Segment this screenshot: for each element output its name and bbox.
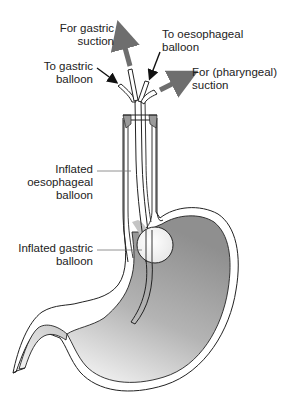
arrow-oesophageal-balloon [150, 52, 160, 78]
label-oesophageal-balloon-port: To oesophageal balloon [162, 28, 243, 54]
oesophagus-outer-right [157, 118, 163, 221]
arrow-pharyngeal-suction [160, 82, 176, 90]
label-inflated-gastric-balloon: Inflated gastric balloon [0, 242, 93, 268]
label-gastric-balloon-port: To gastric balloon [20, 60, 93, 86]
arrow-gastric-suction [124, 44, 130, 66]
gastric-balloon [137, 227, 173, 263]
arrow-gastric-balloon [97, 68, 116, 82]
label-inflated-oesophageal-balloon: Inflated oesophageal balloon [10, 163, 93, 202]
label-pharyngeal-suction: For (pharyngeal) suction [192, 66, 277, 92]
label-gastric-suction: For gastric suction [30, 22, 114, 48]
